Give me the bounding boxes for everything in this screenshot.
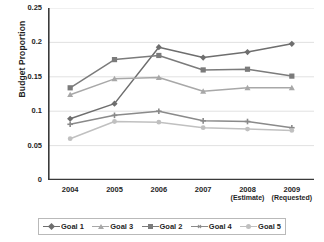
x-tick-year: 2007	[195, 185, 212, 194]
marker-square	[245, 67, 250, 72]
marker-circle	[201, 125, 206, 130]
legend-item-goal-4[interactable]: Goal 4	[191, 222, 232, 231]
y-tick-label: 0	[6, 176, 42, 184]
budget-proportion-line-chart: Budget Proportion 00.050.10.150.20.25 20…	[0, 0, 324, 242]
x-tick-year: 2004	[62, 185, 79, 194]
data-point-2007	[201, 125, 206, 130]
series-line	[70, 122, 292, 139]
data-point-2006	[156, 53, 161, 58]
legend-label: Goal 1	[61, 222, 84, 231]
marker-circle	[68, 136, 73, 141]
legend-label: Goal 2	[160, 222, 183, 231]
plot-area	[48, 8, 314, 180]
marker-diamond	[289, 41, 295, 47]
x-tick-sublabel: (Requested)	[264, 194, 320, 203]
data-point-2004	[68, 136, 73, 141]
data-point-2005	[112, 113, 118, 119]
data-point-2006	[156, 108, 162, 114]
marker-diamond	[200, 54, 206, 60]
x-tick-year: 2009	[283, 185, 300, 194]
x-tick-year: 2006	[150, 185, 167, 194]
plot-svg	[48, 8, 314, 180]
legend-item-goal-1[interactable]: Goal 1	[43, 222, 84, 231]
y-tick-label: 0.15	[6, 73, 42, 81]
legend-marker-square-icon	[142, 222, 159, 231]
legend-item-goal-5[interactable]: Goal 5	[240, 222, 281, 231]
legend-marker-cross-icon	[191, 222, 208, 231]
data-point-2004	[67, 116, 73, 122]
legend-label: Goal 4	[209, 222, 232, 231]
legend-marker-circle-icon	[240, 222, 257, 231]
data-point-2008	[245, 127, 250, 132]
data-point-2009	[289, 128, 294, 133]
marker-circle	[156, 120, 161, 125]
series-goal-3	[67, 74, 295, 97]
series-goal-1	[67, 41, 295, 122]
legend-marker-triangle-icon	[92, 222, 109, 231]
marker-circle	[245, 127, 250, 132]
marker-square	[112, 57, 117, 62]
data-point-2007	[200, 54, 206, 60]
marker-square	[201, 67, 206, 72]
marker-square	[156, 53, 161, 58]
y-axis-title: Budget Proportion	[17, 0, 27, 119]
x-tick-year: 2008	[239, 185, 256, 194]
marker-diamond	[67, 116, 73, 122]
y-tick-label: 0.05	[6, 142, 42, 150]
x-tick-year: 2005	[106, 185, 123, 194]
data-point-2005	[112, 57, 117, 62]
legend-label: Goal 3	[110, 222, 133, 231]
legend-label: Goal 5	[258, 222, 281, 231]
marker-circle	[112, 119, 117, 124]
data-point-2004	[67, 121, 73, 127]
marker-square	[68, 85, 73, 90]
legend-item-goal-2[interactable]: Goal 2	[142, 222, 183, 231]
series-line	[70, 77, 292, 94]
legend-item-goal-3[interactable]: Goal 3	[92, 222, 133, 231]
data-point-2008	[245, 67, 250, 72]
data-point-2009	[289, 41, 295, 47]
series-goal-5	[68, 119, 294, 141]
data-point-2008	[245, 119, 251, 125]
data-point-2005	[112, 119, 117, 124]
chart-legend[interactable]: Goal 1Goal 3Goal 2Goal 4Goal 5	[38, 218, 286, 235]
marker-square	[289, 74, 294, 79]
data-point-2009	[289, 74, 294, 79]
x-tick-label: 2009(Requested)	[264, 185, 320, 203]
data-point-2007	[201, 67, 206, 72]
data-point-2006	[156, 120, 161, 125]
y-tick-label: 0.1	[6, 107, 42, 115]
y-tick-label: 0.25	[6, 4, 42, 12]
legend-marker-diamond-icon	[43, 222, 60, 231]
data-point-2008	[244, 49, 250, 55]
data-point-2007	[200, 118, 206, 124]
data-point-2004	[68, 85, 73, 90]
marker-circle	[289, 128, 294, 133]
y-tick-label: 0.2	[6, 38, 42, 46]
marker-diamond	[244, 49, 250, 55]
series-line	[70, 44, 292, 119]
